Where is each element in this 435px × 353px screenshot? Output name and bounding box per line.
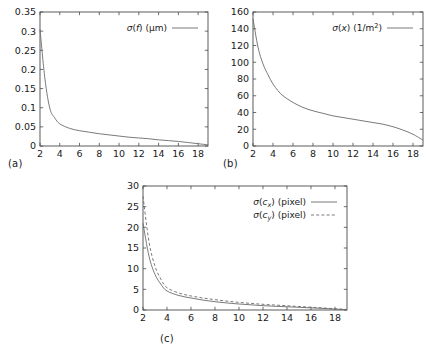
svg-text:2: 2	[140, 312, 146, 323]
svg-text:σ(x) (1/m2): σ(x) (1/m2)	[332, 22, 382, 33]
svg-text:0: 0	[243, 140, 249, 151]
svg-text:16: 16	[305, 312, 317, 323]
data-series-line	[143, 196, 347, 309]
svg-text:0: 0	[30, 140, 36, 151]
svg-text:4: 4	[270, 148, 276, 159]
svg-text:10: 10	[233, 312, 245, 323]
svg-text:30: 30	[127, 180, 139, 191]
svg-text:18: 18	[329, 312, 341, 323]
svg-text:14: 14	[367, 148, 379, 159]
svg-text:σ(cx) (pixel): σ(cx) (pixel)	[253, 197, 306, 209]
svg-text:8: 8	[96, 148, 102, 159]
svg-text:25: 25	[127, 201, 139, 212]
figure-container: 2468101214161800.050.10.150.20.250.30.35…	[0, 0, 435, 353]
svg-text:100: 100	[231, 57, 249, 68]
svg-text:80: 80	[237, 73, 249, 84]
svg-text:6: 6	[77, 148, 83, 159]
svg-text:10: 10	[127, 263, 139, 274]
svg-text:18: 18	[192, 148, 204, 159]
svg-text:0.3: 0.3	[21, 26, 36, 37]
svg-text:10: 10	[327, 148, 339, 159]
svg-text:2: 2	[37, 148, 43, 159]
svg-text:0.1: 0.1	[21, 102, 36, 113]
data-series-line	[143, 223, 347, 309]
svg-text:6: 6	[188, 312, 194, 323]
svg-text:16: 16	[387, 148, 399, 159]
svg-text:0.2: 0.2	[21, 64, 36, 75]
chart-panel-a: 2468101214161800.050.10.150.20.250.30.35…	[0, 0, 215, 178]
svg-text:12: 12	[257, 312, 269, 323]
svg-text:2: 2	[250, 148, 256, 159]
svg-text:σ(f) (μm): σ(f) (μm)	[127, 23, 167, 33]
chart-panel-c: 24681012141618051015202530σ(cx) (pixel)σ…	[105, 176, 355, 353]
chart-panel-b: 24681012141618020406080100120140160σ(x) …	[215, 0, 430, 178]
svg-text:40: 40	[237, 107, 249, 118]
svg-text:5: 5	[133, 284, 139, 295]
plot-a-svg: 2468101214161800.050.10.150.20.250.30.35…	[0, 0, 215, 178]
svg-text:15: 15	[127, 242, 139, 253]
svg-text:0: 0	[133, 304, 139, 315]
svg-text:8: 8	[212, 312, 218, 323]
svg-text:18: 18	[407, 148, 419, 159]
svg-text:12: 12	[133, 148, 145, 159]
svg-text:0.15: 0.15	[15, 83, 36, 94]
svg-text:4: 4	[164, 312, 170, 323]
data-series-line	[253, 19, 423, 140]
svg-text:6: 6	[290, 148, 296, 159]
svg-text:4: 4	[57, 148, 63, 159]
data-series-line	[40, 29, 208, 145]
svg-text:14: 14	[153, 148, 165, 159]
svg-text:0.05: 0.05	[15, 121, 36, 132]
svg-text:120: 120	[231, 40, 249, 51]
svg-text:14: 14	[281, 312, 293, 323]
plot-c-svg: 24681012141618051015202530σ(cx) (pixel)σ…	[105, 176, 355, 353]
svg-text:140: 140	[231, 23, 249, 34]
svg-text:0.35: 0.35	[15, 6, 36, 17]
panel-label-a: (a)	[8, 158, 23, 169]
svg-text:160: 160	[231, 6, 249, 17]
svg-text:16: 16	[172, 148, 184, 159]
panel-label-c: (c)	[160, 333, 174, 344]
plot-b-svg: 24681012141618020406080100120140160σ(x) …	[215, 0, 430, 178]
svg-text:60: 60	[237, 90, 249, 101]
svg-text:8: 8	[310, 148, 316, 159]
panel-label-b: (b)	[223, 158, 238, 169]
svg-text:σ(cy) (pixel): σ(cy) (pixel)	[253, 210, 306, 222]
svg-text:0.25: 0.25	[15, 45, 36, 56]
svg-text:10: 10	[113, 148, 125, 159]
svg-text:20: 20	[127, 222, 139, 233]
svg-text:12: 12	[347, 148, 359, 159]
svg-text:20: 20	[237, 124, 249, 135]
